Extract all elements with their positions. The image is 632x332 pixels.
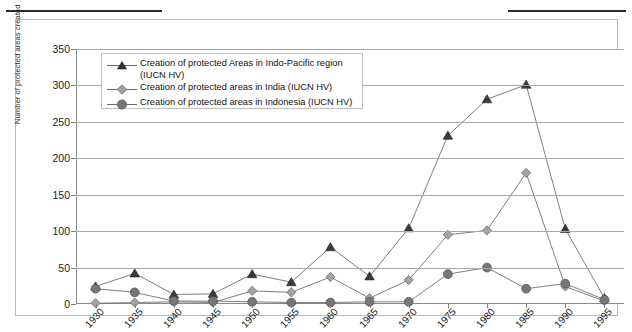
legend-label-india: Creation of protected areas in India (IU…: [140, 82, 332, 94]
triangle-marker-icon: [107, 59, 137, 72]
legend-item-india: Creation of protected areas in India (IU…: [107, 82, 357, 96]
x-tick-label: 1990: [547, 306, 576, 332]
y-tick-mark: [71, 304, 76, 305]
y-tick-label: 300: [52, 79, 70, 91]
legend-item-indonesia: Creation of protected areas in Indonesia…: [107, 97, 357, 111]
x-tick-label: 1975: [429, 306, 458, 332]
y-tick-mark: [71, 195, 76, 196]
figure-page: Number of protected areas created 050100…: [0, 0, 632, 332]
circle-data-point: [130, 288, 139, 297]
triangle-data-point: [130, 269, 140, 277]
x-tick-label: 1950: [234, 306, 263, 332]
x-tick-label: 1970: [390, 306, 419, 332]
circle-data-point: [522, 284, 531, 293]
x-tick-label: 1995: [586, 306, 615, 332]
gridline: [76, 158, 624, 159]
triangle-data-point: [247, 270, 257, 278]
series-circle: [91, 263, 609, 307]
circle-data-point: [443, 270, 452, 279]
gridline: [76, 231, 624, 232]
y-tick-mark: [71, 85, 76, 86]
gridline: [76, 49, 624, 50]
y-tick-label: 150: [52, 189, 70, 201]
x-tick-label: 1965: [351, 306, 380, 332]
x-tick-label: 1930: [77, 306, 106, 332]
y-tick-mark: [71, 268, 76, 269]
triangle-data-point: [365, 272, 375, 280]
triangle-data-point: [326, 243, 336, 251]
x-axis-tick-labels: 1930193519401945195019551960196519701975…: [76, 306, 624, 332]
y-tick-mark: [71, 158, 76, 159]
y-tick-label: 350: [52, 43, 70, 55]
y-tick-label: 200: [52, 152, 70, 164]
series-diamond: [91, 168, 609, 308]
series-line: [96, 173, 605, 303]
diamond-data-point: [326, 272, 335, 281]
triangle-data-point: [482, 95, 492, 103]
y-tick-label: 250: [52, 116, 70, 128]
legend-item-indo-pacific: Creation of protected Areas in Indo-Paci…: [107, 58, 357, 81]
y-tick-label: 0: [64, 298, 70, 310]
y-tick-label: 100: [52, 225, 70, 237]
triangle-data-point: [521, 80, 531, 88]
legend-label-indo-pacific: Creation of protected Areas in Indo-Paci…: [140, 58, 343, 81]
page-rule-right: [508, 10, 626, 12]
page-rule-left: [6, 10, 162, 12]
chart-frame: Number of protected areas created 050100…: [15, 19, 618, 316]
y-axis-tick-labels: 050100150200250300350: [30, 49, 70, 304]
y-axis-title: Number of protected areas created: [13, 0, 22, 124]
y-tick-mark: [71, 122, 76, 123]
legend-label-indonesia: Creation of protected areas in Indonesia…: [140, 97, 352, 109]
circle-data-point: [600, 295, 609, 304]
gridline: [76, 195, 624, 196]
diamond-marker-icon: [107, 83, 137, 96]
x-tick-label: 1980: [469, 306, 498, 332]
x-tick-label: 1955: [273, 306, 302, 332]
y-tick-mark: [71, 49, 76, 50]
y-tick-mark: [71, 231, 76, 232]
series-line: [96, 85, 605, 298]
circle-data-point: [561, 279, 570, 288]
y-tick-label: 50: [58, 262, 70, 274]
x-tick-label: 1960: [312, 306, 341, 332]
x-tick-label: 1935: [116, 306, 145, 332]
diamond-data-point: [522, 168, 531, 177]
diamond-data-point: [287, 288, 296, 297]
gridline: [76, 122, 624, 123]
x-tick-label: 1940: [155, 306, 184, 332]
chart-legend: Creation of protected Areas in Indo-Paci…: [101, 53, 363, 109]
circle-marker-icon: [107, 98, 137, 111]
circle-data-point: [91, 284, 100, 293]
gridline: [76, 268, 624, 269]
x-tick-label: 1985: [508, 306, 537, 332]
triangle-data-point: [208, 289, 218, 297]
x-tick-label: 1945: [195, 306, 224, 332]
diamond-data-point: [248, 286, 257, 295]
